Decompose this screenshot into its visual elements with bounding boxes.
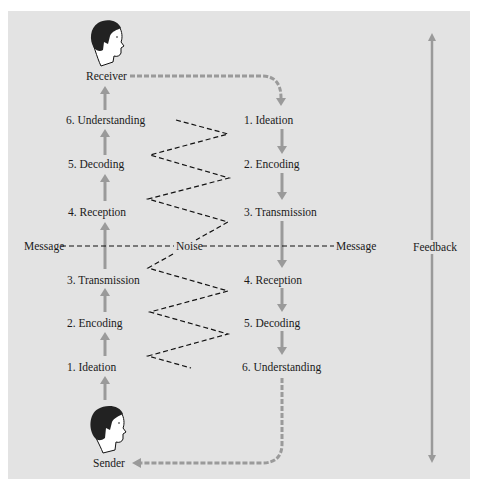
left-step-transmission: 3. Transmission [67,274,140,286]
left-step-decoding: 5. Decoding [68,158,124,171]
left-step-encoding: 2. Encoding [67,317,123,330]
left-step-ideation: 1. Ideation [67,361,116,373]
message-right-label: Message [336,240,376,253]
noise-label: Noise [176,240,203,252]
left-step-understanding: 6. Understanding [66,114,145,127]
feedback-label: Feedback [413,241,457,253]
right-step-encoding: 2. Encoding [244,158,300,171]
right-step-reception: 4. Reception [244,274,302,287]
message-left-label: Message [24,240,64,253]
sender-label: Sender [93,457,125,469]
diagram-panel [8,11,470,479]
communication-diagram: Receiver Sender Feedbac [0,0,479,488]
right-step-transmission: 3. Transmission [244,206,317,218]
receiver-label: Receiver [86,70,127,82]
right-step-understanding: 6. Understanding [242,361,321,374]
right-step-ideation: 1. Ideation [244,114,293,126]
left-step-reception: 4. Reception [68,206,126,219]
right-step-decoding: 5. Decoding [244,317,300,330]
